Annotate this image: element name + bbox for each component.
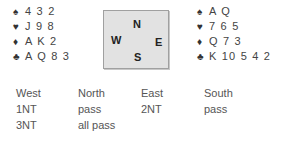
bidding-row: 3NT all pass bbox=[16, 117, 264, 133]
bid-cell: 2NT bbox=[141, 101, 204, 117]
west-clubs-cards: A Q 8 3 bbox=[25, 50, 70, 62]
west-diamonds: ♦A K 2 bbox=[13, 34, 70, 49]
east-hand: ♠A Q ♥7 6 5 ♦Q 7 3 ♣K 10 5 4 2 bbox=[197, 4, 271, 64]
header-east: East bbox=[141, 85, 204, 101]
east-spades-cards: A Q bbox=[209, 5, 231, 17]
bidding-table: West North East South 1NT pass 2NT pass … bbox=[16, 85, 264, 133]
bid-cell bbox=[204, 117, 264, 133]
east-clubs-cards: K 10 5 4 2 bbox=[209, 50, 271, 62]
heart-icon: ♥ bbox=[197, 19, 209, 34]
east-clubs: ♣K 10 5 4 2 bbox=[197, 49, 271, 64]
compass-west: W bbox=[111, 34, 121, 46]
bid-cell: pass bbox=[204, 101, 264, 117]
club-icon: ♣ bbox=[197, 49, 209, 64]
bidding-header-row: West North East South bbox=[16, 85, 264, 101]
header-south: South bbox=[204, 85, 264, 101]
west-spades-cards: 4 3 2 bbox=[25, 5, 55, 17]
west-spades: ♠4 3 2 bbox=[13, 4, 70, 19]
bid-cell: pass bbox=[78, 101, 141, 117]
west-hand: ♠4 3 2 ♥J 9 8 ♦A K 2 ♣A Q 8 3 bbox=[13, 4, 70, 64]
club-icon: ♣ bbox=[13, 49, 25, 64]
bid-cell bbox=[141, 117, 204, 133]
bid-cell: 3NT bbox=[16, 117, 78, 133]
east-hearts: ♥7 6 5 bbox=[197, 19, 271, 34]
east-diamonds: ♦Q 7 3 bbox=[197, 34, 271, 49]
west-clubs: ♣A Q 8 3 bbox=[13, 49, 70, 64]
compass-east: E bbox=[155, 36, 162, 48]
east-hearts-cards: 7 6 5 bbox=[209, 20, 239, 32]
spade-icon: ♠ bbox=[13, 4, 25, 19]
west-hearts-cards: J 9 8 bbox=[25, 20, 55, 32]
compass-north: N bbox=[133, 18, 141, 30]
east-spades: ♠A Q bbox=[197, 4, 271, 19]
compass-south: S bbox=[134, 51, 141, 63]
east-diamonds-cards: Q 7 3 bbox=[209, 35, 242, 47]
heart-icon: ♥ bbox=[13, 19, 25, 34]
compass-box: N W E S bbox=[103, 10, 169, 69]
spade-icon: ♠ bbox=[197, 4, 209, 19]
header-west: West bbox=[16, 85, 78, 101]
header-north: North bbox=[78, 85, 141, 101]
west-hearts: ♥J 9 8 bbox=[13, 19, 70, 34]
bid-cell: 1NT bbox=[16, 101, 78, 117]
bidding-row: 1NT pass 2NT pass bbox=[16, 101, 264, 117]
diamond-icon: ♦ bbox=[13, 34, 25, 49]
west-diamonds-cards: A K 2 bbox=[25, 35, 57, 47]
bid-cell: all pass bbox=[78, 117, 141, 133]
diamond-icon: ♦ bbox=[197, 34, 209, 49]
